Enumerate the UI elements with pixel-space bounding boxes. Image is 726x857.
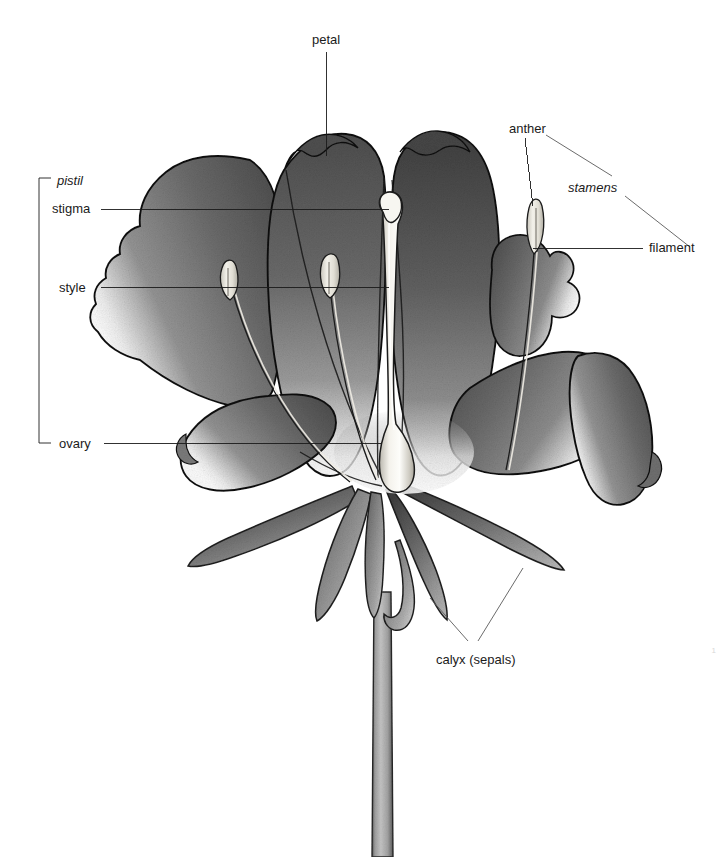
label-stamens: stamens: [568, 181, 617, 194]
label-style: style: [59, 281, 86, 294]
label-filament: filament: [649, 241, 695, 254]
page-number: 1: [712, 646, 716, 655]
figure-page: pistil stigma style ovary petal anther s…: [0, 0, 726, 857]
label-anther: anther: [509, 122, 546, 135]
stamens-leader-upper: [546, 135, 612, 176]
petal-outer-left: [90, 156, 284, 407]
pistil-bracket: [39, 178, 51, 443]
label-petal: petal: [312, 33, 340, 46]
calyx-leader-right: [478, 568, 523, 641]
sepal-center-left: [365, 492, 384, 618]
anther-leader: [525, 138, 533, 206]
label-pistil: pistil: [57, 174, 83, 187]
sepal-curl-under: [384, 540, 415, 630]
flower-diagram-svg: [0, 0, 726, 857]
petal-right-lobe: [570, 353, 653, 505]
calyx-leader-left: [430, 598, 468, 641]
label-calyx-sepals: calyx (sepals): [436, 653, 515, 666]
label-stigma: stigma: [52, 202, 90, 215]
flower-illustration: [90, 131, 661, 857]
label-ovary: ovary: [59, 437, 91, 450]
calyx-sepals: [188, 482, 564, 630]
stem: [372, 592, 393, 857]
